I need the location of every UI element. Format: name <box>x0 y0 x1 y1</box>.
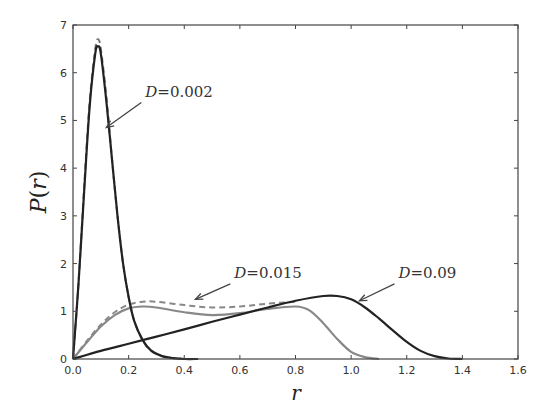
svg-text:P(r): P(r) <box>26 171 51 215</box>
y-axis-label: P(r) <box>26 171 51 215</box>
y-tick-label: 7 <box>60 19 67 32</box>
x-tick-label: 1.2 <box>398 364 416 377</box>
axis-ticks: 0.00.20.40.60.81.01.21.41.601234567 <box>60 19 527 377</box>
x-axis-label: r <box>291 381 302 405</box>
annotation-label: D=0.002 <box>144 83 213 101</box>
plot-curves <box>73 39 462 359</box>
y-tick-label: 3 <box>60 210 67 223</box>
y-tick-label: 5 <box>60 114 67 127</box>
x-tick-label: 0.8 <box>287 364 305 377</box>
x-tick-label: 0.2 <box>120 364 138 377</box>
annotation-arrow <box>195 284 230 299</box>
y-tick-label: 4 <box>60 162 67 175</box>
annotation-arrow <box>359 284 394 301</box>
annotation-arrow <box>106 103 141 128</box>
y-tick-label: 0 <box>60 353 67 366</box>
x-tick-label: 1.6 <box>509 364 527 377</box>
x-tick-label: 1.0 <box>342 364 360 377</box>
plot-frame <box>73 25 518 359</box>
series-line <box>73 306 379 359</box>
y-tick-label: 2 <box>60 258 67 271</box>
x-tick-label: 0.6 <box>231 364 249 377</box>
annotations: D=0.002D=0.015D=0.09 <box>106 83 456 301</box>
chart: 0.00.20.40.60.81.01.21.41.601234567 D=0.… <box>0 0 550 414</box>
x-tick-label: 0.4 <box>176 364 194 377</box>
annotation-label: D=0.015 <box>233 264 302 282</box>
annotation-label: D=0.09 <box>397 264 456 282</box>
y-tick-label: 6 <box>60 67 67 80</box>
x-tick-label: 1.4 <box>454 364 472 377</box>
series-line <box>73 296 462 359</box>
y-tick-label: 1 <box>60 305 67 318</box>
